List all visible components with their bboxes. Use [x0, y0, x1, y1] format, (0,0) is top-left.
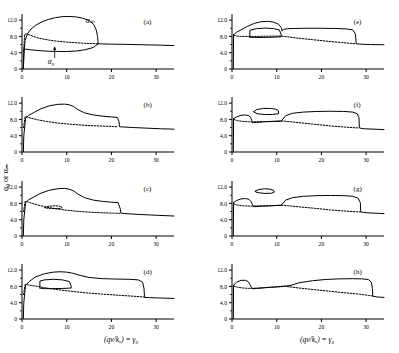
- curve-right-rising-plateau-solid: [290, 279, 384, 298]
- svg-text:0: 0: [231, 74, 234, 80]
- chart-panel-b: 04.08.012.00102030(b): [2, 89, 188, 172]
- panel-tag: (c): [144, 185, 152, 193]
- svg-text:4.0: 4.0: [10, 50, 17, 56]
- svg-text:30: 30: [363, 241, 369, 247]
- panel-tag: (e): [354, 18, 362, 26]
- svg-text:20: 20: [109, 74, 115, 80]
- svg-text:0: 0: [14, 149, 17, 155]
- svg-text:0: 0: [231, 241, 234, 247]
- chart-panel-c: 04.08.012.00102030(c): [2, 173, 188, 256]
- svg-text:20: 20: [109, 157, 115, 163]
- curve-right-plateau-solid: [282, 28, 384, 44]
- svg-text:20: 20: [319, 74, 325, 80]
- svg-text:10: 10: [64, 157, 70, 163]
- svg-text:4.0: 4.0: [220, 217, 227, 223]
- svg-text:0: 0: [14, 233, 17, 239]
- chart-panel-d: 04.08.012.00102030(d): [2, 256, 188, 339]
- svg-text:12.0: 12.0: [7, 267, 17, 273]
- svg-text:30: 30: [153, 241, 159, 247]
- svg-text:4.0: 4.0: [10, 133, 17, 139]
- svg-text:30: 30: [153, 324, 159, 330]
- curve-alpha_0-dashed: [24, 117, 118, 128]
- svg-text:10: 10: [64, 324, 70, 330]
- curve-label-alpha-0: α₀: [48, 57, 55, 66]
- svg-text:0: 0: [224, 233, 227, 239]
- chart-panel-a: 04.08.012.00102030(a)αₘα₀: [2, 6, 188, 89]
- curve-right-plateau-solid: [281, 195, 384, 213]
- figure-panel-grid: α₀ or αₘ (qv/kₒ) = γ₀ (qv/kₒ) = γ₀ 04.08…: [0, 0, 399, 353]
- svg-text:4.0: 4.0: [10, 217, 17, 223]
- svg-text:20: 20: [319, 324, 325, 330]
- svg-text:8.0: 8.0: [220, 201, 227, 207]
- panel-tag: (g): [354, 185, 363, 193]
- svg-text:0: 0: [21, 324, 24, 330]
- curve-alpha_0-dashed-main: [234, 286, 373, 296]
- svg-text:0: 0: [21, 74, 24, 80]
- svg-text:4.0: 4.0: [220, 133, 227, 139]
- chart-panel-g: 04.08.012.00102030(g): [212, 173, 398, 256]
- svg-text:0: 0: [224, 66, 227, 72]
- svg-text:4.0: 4.0: [10, 300, 17, 306]
- chart-panel-h: 04.08.012.00102030(h): [212, 256, 398, 339]
- chart-panel-e: 04.08.012.00102030(e): [212, 6, 398, 89]
- curve-alpha_M-upper-solid: [23, 104, 174, 151]
- svg-text:30: 30: [153, 74, 159, 80]
- chart-panel-f: 04.08.012.00102030(f): [212, 89, 398, 172]
- svg-text:8.0: 8.0: [10, 201, 17, 207]
- svg-text:0: 0: [21, 157, 24, 163]
- curve-alpha_M-upper-solid: [23, 272, 174, 319]
- svg-text:20: 20: [319, 157, 325, 163]
- svg-text:8.0: 8.0: [10, 284, 17, 290]
- svg-text:30: 30: [363, 74, 369, 80]
- curve-alpha_0-dashed-main: [24, 201, 120, 213]
- svg-text:8.0: 8.0: [10, 34, 17, 40]
- svg-text:0: 0: [14, 316, 17, 322]
- curve-detached-loop: [253, 108, 278, 114]
- svg-text:12.0: 12.0: [217, 267, 227, 273]
- svg-text:10: 10: [274, 74, 280, 80]
- svg-text:20: 20: [319, 241, 325, 247]
- svg-text:12.0: 12.0: [7, 100, 17, 106]
- curve-right-plateau-solid: [281, 111, 384, 129]
- svg-text:10: 10: [274, 157, 280, 163]
- curve-alpha_M-upper-solid: [23, 188, 174, 235]
- svg-text:0: 0: [224, 316, 227, 322]
- svg-text:12.0: 12.0: [217, 17, 227, 23]
- panel-tag: (a): [144, 18, 152, 26]
- svg-text:10: 10: [64, 74, 70, 80]
- svg-text:8.0: 8.0: [220, 34, 227, 40]
- svg-text:0: 0: [231, 157, 234, 163]
- svg-text:20: 20: [109, 241, 115, 247]
- svg-text:10: 10: [274, 324, 280, 330]
- curve-isolated-island: [255, 189, 274, 194]
- svg-text:12.0: 12.0: [7, 184, 17, 190]
- svg-text:30: 30: [363, 157, 369, 163]
- curve-alpha_M-upper-solid: [23, 16, 174, 68]
- svg-text:8.0: 8.0: [10, 117, 17, 123]
- curve-upper-arc-solid: [234, 21, 283, 34]
- svg-text:20: 20: [109, 324, 115, 330]
- svg-text:10: 10: [274, 241, 280, 247]
- svg-text:12.0: 12.0: [217, 100, 227, 106]
- svg-text:0: 0: [21, 241, 24, 247]
- curve-alpha_0-dashed-main: [234, 119, 359, 128]
- svg-text:10: 10: [64, 241, 70, 247]
- curve-alpha_0-dashed-main: [24, 284, 144, 297]
- panel-tag: (h): [354, 268, 363, 276]
- svg-text:0: 0: [231, 324, 234, 330]
- svg-text:8.0: 8.0: [220, 284, 227, 290]
- svg-text:8.0: 8.0: [220, 117, 227, 123]
- panel-tag: (b): [144, 101, 153, 109]
- curve-alpha_0-lower-solid: [23, 44, 98, 69]
- svg-text:0: 0: [14, 66, 17, 72]
- curve-label-alpha-M: αₘ: [86, 16, 95, 25]
- svg-text:0: 0: [224, 149, 227, 155]
- svg-text:30: 30: [363, 324, 369, 330]
- svg-text:30: 30: [153, 157, 159, 163]
- panel-tag: (d): [144, 268, 153, 276]
- svg-text:12.0: 12.0: [217, 184, 227, 190]
- svg-text:4.0: 4.0: [220, 300, 227, 306]
- curve-alpha_0-dashed-main: [234, 35, 356, 44]
- svg-text:4.0: 4.0: [220, 50, 227, 56]
- svg-text:12.0: 12.0: [7, 17, 17, 23]
